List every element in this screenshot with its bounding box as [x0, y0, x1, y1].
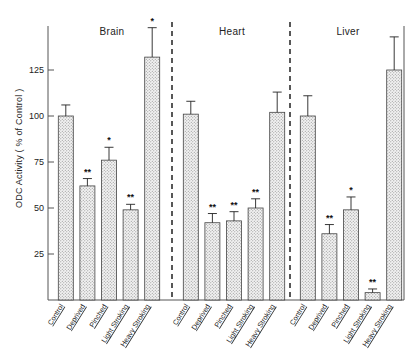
bar-heart-deprived	[205, 223, 220, 300]
panel-title-liver: Liver	[336, 26, 360, 37]
panel-titles: BrainHeartLiver	[100, 26, 360, 37]
bar-group: *	[145, 16, 160, 300]
bar-group: **	[365, 277, 380, 300]
y-tick-label: 125	[29, 65, 44, 75]
x-category-label: Control	[288, 302, 308, 327]
bar-brain-control	[58, 116, 73, 300]
bar-group: **	[123, 192, 138, 300]
y-axis-title: ODC Activity ( % of Control )	[14, 89, 24, 208]
bar-heart-control	[183, 114, 198, 300]
significance-marker: **	[127, 192, 135, 202]
chart-canvas: ODC Activity ( % of Control ) 2550751001…	[0, 0, 411, 364]
bar-brain-pinched	[102, 160, 117, 300]
bar-group	[270, 92, 285, 300]
y-axis-title-text: ODC Activity ( % of Control )	[14, 89, 24, 208]
bar-liver-control	[300, 116, 315, 300]
significance-marker: *	[107, 135, 111, 145]
bar-group: **	[248, 187, 263, 300]
panel-title-brain: Brain	[100, 26, 125, 37]
bar-group	[58, 105, 73, 300]
bar-group: **	[322, 213, 337, 300]
y-axis-ticks: 255075100125	[29, 65, 54, 259]
significance-marker: **	[84, 167, 92, 177]
bar-heart-pinched	[227, 221, 242, 300]
y-tick-label: 25	[34, 249, 44, 259]
bar-brain-light-stroking	[123, 210, 138, 300]
bar-liver-deprived	[322, 234, 337, 300]
bar-group: **	[80, 167, 95, 300]
bar-group: **	[205, 202, 220, 300]
bar-liver-light-stroking	[365, 293, 380, 300]
significance-marker: *	[349, 185, 353, 195]
bar-liver-pinched	[344, 210, 359, 300]
bar-brain-deprived	[80, 186, 95, 300]
panel-title-heart: Heart	[219, 26, 245, 37]
y-tick-label: 50	[34, 203, 44, 213]
y-tick-label: 100	[29, 111, 44, 121]
x-category-label: Deprived	[306, 302, 329, 331]
significance-marker: **	[209, 202, 217, 212]
x-category-label: Pinched	[212, 302, 233, 329]
significance-marker: **	[230, 200, 238, 210]
odc-activity-bar-chart: ODC Activity ( % of Control ) 2550751001…	[0, 0, 411, 364]
bars-layer: *****************	[58, 16, 401, 300]
x-category-label: Deprived	[64, 302, 87, 331]
bar-heart-heavy-stroking	[270, 112, 285, 300]
bar-group	[300, 96, 315, 300]
y-tick-label: 75	[34, 157, 44, 167]
bar-group: **	[227, 200, 242, 300]
bar-group	[387, 37, 402, 300]
x-category-label: Control	[46, 302, 66, 327]
bar-group: *	[102, 135, 117, 300]
bar-group	[183, 101, 198, 300]
significance-marker: *	[150, 16, 154, 26]
significance-marker: **	[252, 187, 260, 197]
bar-group: *	[344, 185, 359, 300]
bar-liver-heavy-stroking	[387, 70, 402, 300]
significance-marker: **	[369, 277, 377, 287]
x-category-label: Pinched	[329, 302, 350, 329]
x-category-label: Control	[171, 302, 191, 327]
x-category-label: Pinched	[87, 302, 108, 329]
x-category-label: Deprived	[189, 302, 212, 331]
bar-heart-light-stroking	[248, 208, 263, 300]
bar-brain-heavy-stroking	[145, 57, 160, 300]
category-labels: ControlDeprivedPinchedLight StrokingHeav…	[46, 302, 394, 348]
significance-marker: **	[326, 213, 334, 223]
